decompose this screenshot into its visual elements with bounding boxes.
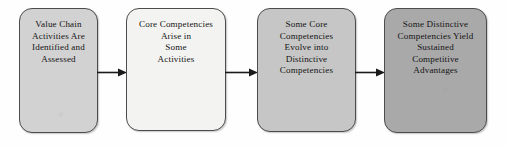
- connector-arrow-3: [355, 67, 385, 78]
- flow-node-value-chain-activities[interactable]: Value Chain Activities Are Identified an…: [19, 8, 98, 133]
- flow-node-core-competencies-arise[interactable]: Core Competencies Arise in Some Activiti…: [126, 8, 226, 131]
- connector-arrow-1: [97, 67, 127, 78]
- connector-arrow-2: [225, 67, 258, 78]
- flow-node-label: Value Chain Activities Are Identified an…: [24, 19, 93, 65]
- flowchart-diagram: Value Chain Activities Are Identified an…: [0, 0, 506, 147]
- flow-node-label: Some Distinctive Competencies Yield Sust…: [389, 19, 482, 77]
- flow-node-label: Some Core Competencies Evolve into Disti…: [262, 19, 351, 77]
- flow-node-core-competencies-evolve[interactable]: Some Core Competencies Evolve into Disti…: [257, 8, 356, 132]
- flow-node-distinctive-competencies-yield[interactable]: Some Distinctive Competencies Yield Sust…: [384, 8, 487, 133]
- flow-node-label: Core Competencies Arise in Some Activiti…: [131, 19, 221, 65]
